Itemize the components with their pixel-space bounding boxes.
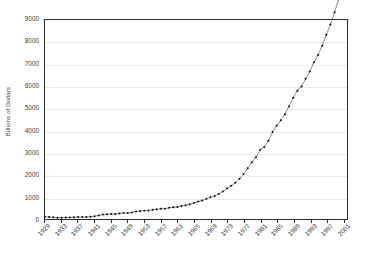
data-point-marker xyxy=(52,216,54,218)
gdp-line-chart: Billions of Dollars 01000200030004000500… xyxy=(0,0,369,262)
y-tick-label: 3000 xyxy=(16,150,42,156)
data-point-marker xyxy=(209,196,211,198)
data-point-marker xyxy=(126,212,128,214)
data-point-marker xyxy=(102,213,104,215)
data-point-marker xyxy=(93,215,95,217)
series-line-gdp xyxy=(45,20,347,219)
data-point-marker xyxy=(213,195,215,197)
data-point-marker xyxy=(118,212,120,214)
x-tick-label: 1981 xyxy=(253,223,268,238)
data-point-marker xyxy=(98,214,100,216)
x-tick-label: 1973 xyxy=(220,223,235,238)
x-tick-label: 1953 xyxy=(137,223,152,238)
data-point-marker xyxy=(164,207,166,209)
data-point-marker xyxy=(44,215,46,217)
data-point-marker xyxy=(180,205,182,207)
data-point-marker xyxy=(160,208,162,210)
data-point-marker xyxy=(135,210,137,212)
data-point-marker xyxy=(60,217,62,219)
x-tick-label: 1965 xyxy=(187,223,202,238)
y-tick-label: 9000 xyxy=(16,16,42,22)
x-tick-label: 1989 xyxy=(287,223,302,238)
y-tick-label: 7000 xyxy=(16,60,42,66)
x-tick-label: 1937 xyxy=(70,223,85,238)
data-point-marker xyxy=(288,105,290,107)
x-tick-label: 1993 xyxy=(303,223,318,238)
data-point-marker xyxy=(85,216,87,218)
data-point-marker xyxy=(89,216,91,218)
data-point-marker xyxy=(333,11,335,13)
y-tick-label: 2000 xyxy=(16,172,42,178)
x-tick-label: 1985 xyxy=(270,223,285,238)
y-tick-label: 0 xyxy=(16,217,42,223)
x-tick-mark xyxy=(211,220,212,223)
x-tick-label: 1997 xyxy=(320,223,335,238)
data-point-marker xyxy=(325,34,327,36)
x-tick-label: 1949 xyxy=(120,223,135,238)
data-point-marker xyxy=(151,209,153,211)
data-point-marker xyxy=(205,198,207,200)
data-point-marker xyxy=(155,208,157,210)
data-point-marker xyxy=(329,23,331,25)
y-axis-tick-labels: 0100020003000400050006000700080009000 xyxy=(16,0,42,262)
x-axis-tick-labels: 1929193319371941194519491953195719611965… xyxy=(44,220,348,262)
y-axis-title-label: Billions of Dollars xyxy=(5,86,12,135)
x-tick-label: 1969 xyxy=(204,223,219,238)
data-point-marker xyxy=(77,216,79,218)
data-point-marker xyxy=(73,216,75,218)
data-point-marker xyxy=(143,209,145,211)
y-tick-label: 8000 xyxy=(16,38,42,44)
data-point-marker xyxy=(64,216,66,218)
data-point-marker xyxy=(172,206,174,208)
data-point-marker xyxy=(176,206,178,208)
data-point-marker xyxy=(197,200,199,202)
data-point-marker xyxy=(110,213,112,215)
data-point-marker xyxy=(193,202,195,204)
plot-area xyxy=(44,19,348,220)
y-tick-label: 1000 xyxy=(16,194,42,200)
data-point-marker xyxy=(139,210,141,212)
data-point-marker xyxy=(184,204,186,206)
x-tick-label: 2001 xyxy=(337,223,352,238)
data-point-marker xyxy=(81,216,83,218)
data-point-marker xyxy=(122,212,124,214)
x-tick-label: 1957 xyxy=(154,223,169,238)
data-point-marker xyxy=(106,213,108,215)
data-point-marker xyxy=(69,216,71,218)
y-tick-label: 6000 xyxy=(16,83,42,89)
y-tick-label: 5000 xyxy=(16,105,42,111)
data-point-marker xyxy=(321,44,323,46)
x-tick-label: 1933 xyxy=(54,223,69,238)
data-point-marker xyxy=(168,207,170,209)
x-tick-label: 1945 xyxy=(104,223,119,238)
data-point-marker xyxy=(114,213,116,215)
x-tick-mark xyxy=(311,220,312,223)
x-tick-label: 1961 xyxy=(170,223,185,238)
data-point-marker xyxy=(201,199,203,201)
data-point-marker xyxy=(189,203,191,205)
data-point-marker xyxy=(147,209,149,211)
data-point-marker xyxy=(48,216,50,218)
x-tick-mark xyxy=(261,220,262,223)
x-tick-label: 1977 xyxy=(237,223,252,238)
series-line xyxy=(45,0,347,218)
data-point-marker xyxy=(131,211,133,213)
x-tick-label: 1941 xyxy=(87,223,102,238)
y-tick-label: 4000 xyxy=(16,127,42,133)
y-axis-title: Billions of Dollars xyxy=(0,0,16,222)
x-tick-mark xyxy=(161,220,162,223)
data-point-marker xyxy=(56,216,58,218)
